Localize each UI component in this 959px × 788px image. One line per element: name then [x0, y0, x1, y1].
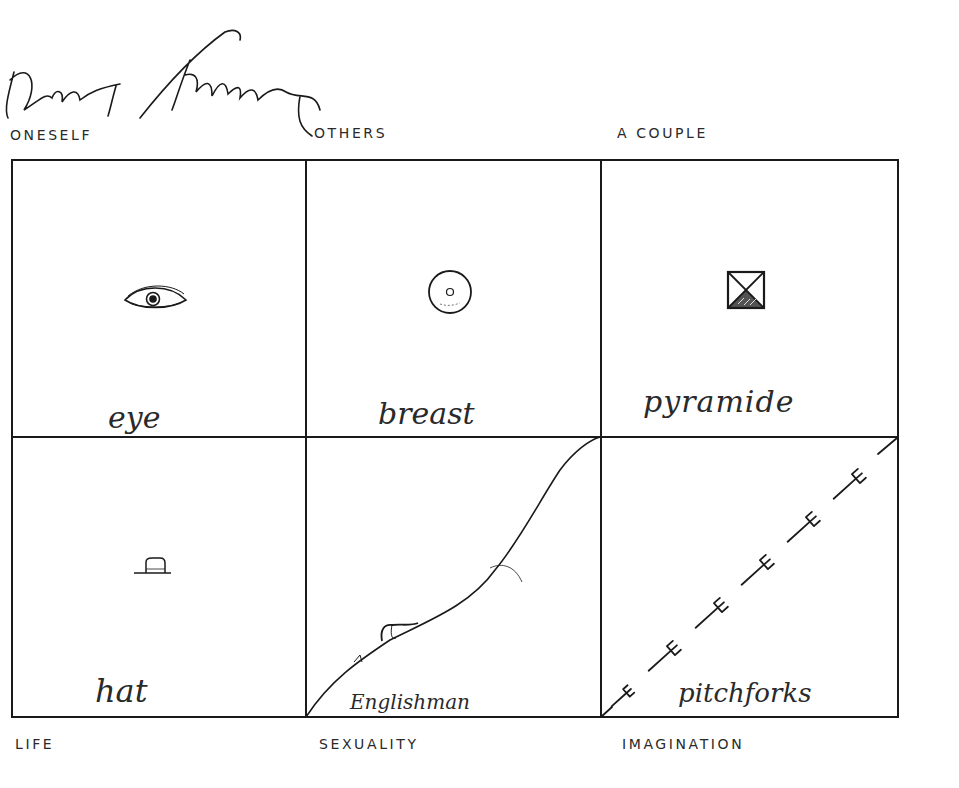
hillside-curve-icon [306, 437, 600, 717]
caption-hat: hat [95, 672, 148, 710]
label-oneself: ONESELF [10, 127, 92, 143]
caption-englishman: Englishman [350, 690, 470, 714]
label-imagination: IMAGINATION [622, 736, 744, 752]
caption-eye: eye [108, 400, 160, 435]
breast-icon [429, 271, 471, 313]
label-a-couple: A COUPLE [617, 125, 708, 141]
label-life: LIFE [15, 736, 54, 752]
label-sexuality: SEXUALITY [319, 736, 419, 752]
pitchfork-icon [601, 438, 897, 717]
pyramid-icon [728, 272, 764, 308]
artwork-canvas [0, 0, 959, 788]
hat-icon [134, 558, 171, 573]
caption-breast: breast [378, 396, 475, 431]
caption-pitchforks: pitchforks [678, 678, 812, 708]
caption-pyramide: pyramide [643, 384, 794, 419]
label-others: OTHERS [314, 125, 387, 141]
eye-icon [125, 286, 186, 308]
grid [12, 160, 898, 717]
